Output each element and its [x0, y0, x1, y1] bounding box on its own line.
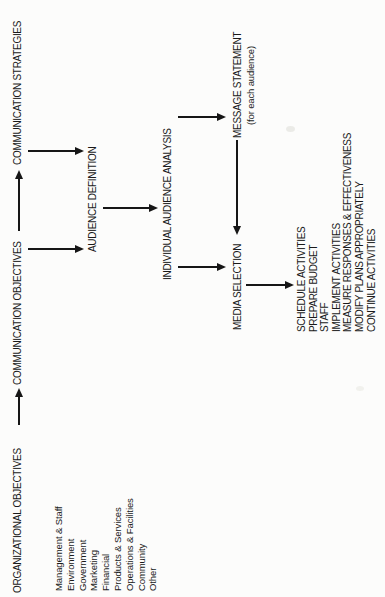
arrow-individual-audience-analysis-to-message-statement — [178, 116, 217, 118]
org-audience-item: Marketing — [88, 498, 100, 591]
org-audience-item: Environment — [65, 498, 77, 591]
arrow-message-statement-to-media-selection — [236, 140, 238, 226]
node-media-selection: MEDIA SELECTION — [232, 244, 243, 330]
arrow-communication-objectives-to-strategies — [18, 179, 20, 231]
arrow-audience-definition-to-individual-audience-analysis — [103, 207, 149, 209]
node-message-statement: MESSAGE STATEMENT — [232, 32, 243, 138]
org-audience-item: Products & Services — [112, 498, 124, 591]
scanned-flowchart-page: ORGANIZATIONAL OBJECTIVES COMMUNICATION … — [0, 0, 385, 597]
org-audience-item: Community — [136, 498, 148, 591]
org-audience-item: Government — [77, 498, 89, 591]
node-communication-objectives: COMMUNICATION OBJECTIVES — [12, 241, 23, 385]
paper-smudge — [286, 126, 295, 132]
node-communication-strategies: COMMUNICATION STRATEGIES — [12, 21, 23, 165]
org-audience-item: Other — [147, 498, 159, 591]
org-audiences-list: Management & Staff Environment Governmen… — [53, 498, 159, 591]
implementation-step-item: MODIFY PLANS APPROPRIATELY — [354, 133, 366, 332]
org-audience-item: Financial — [100, 498, 112, 591]
org-audience-item: Management & Staff — [53, 498, 65, 591]
node-individual-audience-analysis: INDIVIDUAL AUDIENCE ANALYSIS — [162, 128, 173, 280]
arrow-media-selection-to-implementation-steps — [246, 284, 285, 286]
implementation-step-item: IMPLEMENT ACTIVITIES — [331, 133, 343, 332]
arrow-communication-strategies-to-audience-definition — [28, 150, 75, 152]
message-statement-caption: (for each audience) — [245, 46, 256, 125]
arrow-communication-objectives-to-audience-definition — [28, 248, 75, 250]
implementation-step-item: PREPARE BUDGET — [308, 133, 320, 332]
communication-planning-flowchart: ORGANIZATIONAL OBJECTIVES COMMUNICATION … — [0, 0, 385, 597]
node-audience-definition: AUDIENCE DEFINITION — [87, 147, 98, 252]
implementation-steps-list: SCHEDULE ACTIVITIES PREPARE BUDGET STAFF… — [296, 133, 377, 332]
implementation-step-item: STAFF — [319, 133, 331, 332]
node-organizational-objectives: ORGANIZATIONAL OBJECTIVES — [12, 448, 23, 593]
implementation-step-item: MEASURE RESPONSES & EFFECTIVENESS — [342, 133, 354, 332]
arrow-org-objectives-to-communication-objectives — [18, 397, 20, 425]
arrow-individual-audience-analysis-to-media-selection — [178, 266, 217, 268]
implementation-step-item: SCHEDULE ACTIVITIES — [296, 133, 308, 332]
org-audience-item: Operations & Facilities — [124, 498, 136, 591]
implementation-step-item: CONTINUE ACTIVITIES — [366, 133, 378, 332]
paper-smudge — [356, 386, 364, 391]
